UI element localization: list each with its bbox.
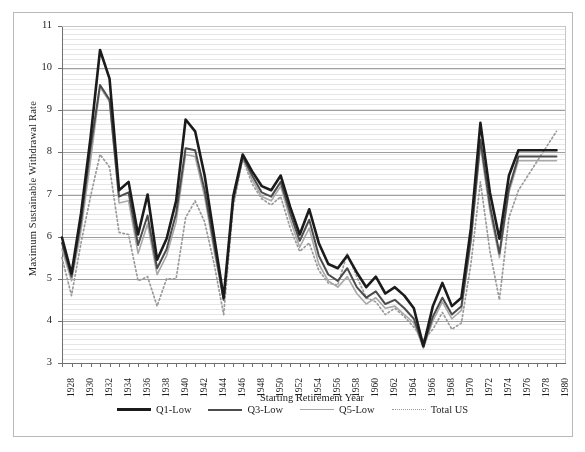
x-tick-label: 1928 [66,378,76,397]
legend-line-total-us [392,409,426,410]
x-tick-label: 1934 [123,378,133,397]
x-tick-label: 1954 [313,378,323,397]
x-tick-label: 1944 [218,378,228,397]
y-tick-label: 4 [30,314,52,325]
x-tick-label: 1974 [503,378,513,397]
legend-item-total-us: Total US [392,404,468,415]
legend-line-q3-low [208,409,242,411]
x-tick-label: 1942 [199,378,209,397]
x-tick-label: 1978 [541,378,551,397]
legend-label-q5-low: Q5-Low [339,404,375,415]
x-tick-label: 1980 [560,378,570,397]
x-tick-label: 1952 [294,378,304,397]
chart-legend: Q1-Low Q3-Low Q5-Low Total US [0,404,585,415]
x-tick-label: 1930 [85,378,95,397]
x-tick-label: 1932 [104,378,114,397]
legend-item-q3-low: Q3-Low [208,404,283,415]
x-tick-label: 1962 [389,378,399,397]
x-tick-label: 1964 [408,378,418,397]
x-tick-label: 1968 [446,378,456,397]
legend-label-total-us: Total US [431,404,468,415]
legend-item-q5-low: Q5-Low [300,404,375,415]
x-tick-label: 1956 [332,378,342,397]
x-tick-label: 1976 [522,378,532,397]
x-tick-label: 1966 [427,378,437,397]
legend-label-q1-low: Q1-Low [156,404,192,415]
x-tick-label: 1950 [275,378,285,397]
x-tick-label: 1972 [484,378,494,397]
x-tick-label: 1960 [370,378,380,397]
legend-item-q1-low: Q1-Low [117,404,192,415]
y-tick-label: 5 [30,272,52,283]
y-tick-label: 6 [30,230,52,241]
x-tick-label: 1970 [465,378,475,397]
legend-line-q1-low [117,408,151,411]
x-tick-label: 1940 [180,378,190,397]
x-tick-label: 1958 [351,378,361,397]
legend-line-q5-low [300,409,334,410]
y-tick-label: 8 [30,145,52,156]
y-tick-label: 7 [30,188,52,199]
y-tick-label: 11 [30,19,52,30]
y-tick-label: 9 [30,103,52,114]
x-tick-label: 1936 [142,378,152,397]
y-tick-label: 3 [30,356,52,367]
x-tick-label: 1938 [161,378,171,397]
y-tick-label: 10 [30,61,52,72]
x-tick-label: 1948 [256,378,266,397]
chart-figure: Maximum Sustainable Withdrawal Rate Star… [0,0,585,452]
x-tick-label: 1946 [237,378,247,397]
legend-label-q3-low: Q3-Low [247,404,283,415]
